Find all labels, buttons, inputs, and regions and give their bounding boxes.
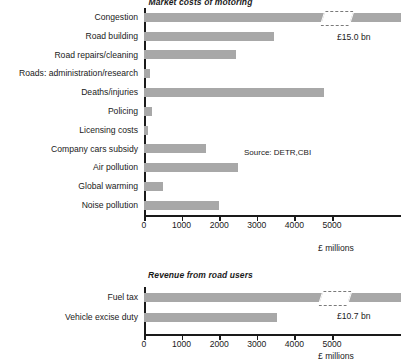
bar <box>144 201 219 210</box>
x-axis-tick-label: 2000 <box>210 340 229 349</box>
bar-row: Air pollution <box>144 158 401 177</box>
bar-category-label: Fuel tax <box>107 293 138 302</box>
x-axis-tick-label: 1000 <box>172 340 191 349</box>
x-axis-tick-label: 4000 <box>285 221 304 230</box>
bar-row: Noise pollution <box>144 196 401 215</box>
bar-row: Roads: administration/research <box>144 64 401 83</box>
bar-category-label: Congestion <box>95 13 138 22</box>
bar-category-label: Deaths/injuries <box>81 88 138 97</box>
x-axis-tick-label: 4000 <box>285 340 304 349</box>
x-axis-tick-label: 3000 <box>247 340 266 349</box>
x-axis-tick-labels: 010002000300040005000 <box>144 340 401 352</box>
bar-row: Fuel tax <box>144 287 401 307</box>
bar-category-label: Licensing costs <box>79 126 138 135</box>
bar-category-label: Policing <box>108 107 138 116</box>
bar <box>144 313 277 322</box>
x-axis-tick-label: 0 <box>142 221 147 230</box>
bar <box>144 88 324 97</box>
bar-category-label: Roads: administration/research <box>19 69 138 78</box>
bar-row: Global warming <box>144 177 401 196</box>
x-axis-unit-label: £ millions <box>318 244 354 253</box>
bar-category-label: Air pollution <box>93 163 138 172</box>
bar-category-label: Company cars subsidy <box>51 145 138 154</box>
x-axis-tick-label: 0 <box>142 340 147 349</box>
x-axis-tick-label: 5000 <box>322 340 341 349</box>
revenue-chart: Revenue from road users Fuel taxVehicle … <box>0 268 401 363</box>
fuel-tax-total-label: £10.7 bn <box>337 312 370 321</box>
bar <box>144 144 206 153</box>
x-axis-tick-label: 1000 <box>172 221 191 230</box>
bar-row: Deaths/injuries <box>144 83 401 102</box>
bar <box>144 32 274 41</box>
bar-row: Road repairs/cleaning <box>144 46 401 65</box>
x-axis-unit-label: £ millions <box>318 352 354 361</box>
x-axis-tick-label: 2000 <box>210 221 229 230</box>
bar-category-label: Road building <box>85 32 138 41</box>
congestion-total-label: £15.0 bn <box>337 33 370 42</box>
bar <box>144 163 238 172</box>
bar <box>144 13 401 22</box>
bar <box>144 50 236 59</box>
chart-title-revenue: Revenue from road users <box>0 270 401 280</box>
bar <box>144 182 163 191</box>
bar <box>144 69 150 78</box>
market-costs-chart: Market costs of motoring CongestionRoad … <box>0 0 401 262</box>
chart-title-market-costs: Market costs of motoring <box>0 0 401 7</box>
bar-category-label: Vehicle excise duty <box>65 313 138 322</box>
bar-row: Policing <box>144 102 401 121</box>
x-axis-tick-label: 5000 <box>322 221 341 230</box>
bar-category-label: Road repairs/cleaning <box>54 51 138 60</box>
axis-break-marker <box>320 11 353 26</box>
bar <box>144 107 152 116</box>
bar <box>144 293 401 302</box>
axis-break-marker <box>318 291 351 306</box>
x-axis-tick-labels: 010002000300040005000 <box>144 221 401 233</box>
bar-category-label: Global warming <box>78 182 138 191</box>
bar-category-label: Noise pollution <box>82 201 138 210</box>
source-note: Source: DETR,CBI <box>244 149 311 157</box>
bar-row: Congestion <box>144 8 401 27</box>
x-axis-tick-label: 3000 <box>247 221 266 230</box>
bar-row: Licensing costs <box>144 121 401 140</box>
bar <box>144 126 148 135</box>
